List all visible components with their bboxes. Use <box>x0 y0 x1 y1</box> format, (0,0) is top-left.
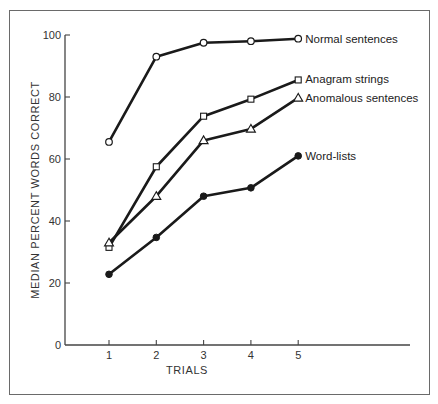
x-tick-label: 2 <box>153 349 159 361</box>
x-tick-label: 3 <box>201 349 207 361</box>
x-tick-label: 1 <box>106 349 112 361</box>
open-circle-marker <box>248 38 255 45</box>
y-tick-label: 60 <box>49 153 61 165</box>
y-axis-title: MEDIAN PERCENT WORDS CORRECT <box>29 81 41 299</box>
series-label: Word-lists <box>305 150 356 162</box>
filled-circle-marker <box>200 193 207 200</box>
filled-circle-marker <box>153 234 160 241</box>
series-label: Normal sentences <box>305 33 398 45</box>
open-square-marker <box>153 164 159 170</box>
y-tick-label: 80 <box>49 91 61 103</box>
filled-circle-marker <box>295 153 302 160</box>
open-square-marker <box>295 77 301 83</box>
x-axis-title: TRIALS <box>166 364 208 376</box>
x-tick-label: 5 <box>295 349 301 361</box>
open-square-marker <box>201 113 207 119</box>
y-tick-label: 40 <box>49 215 61 227</box>
y-tick-label: 20 <box>49 277 61 289</box>
series-line <box>109 80 298 247</box>
open-triangle-marker <box>294 93 303 101</box>
x-tick-label: 4 <box>248 349 254 361</box>
series-label: Anomalous sentences <box>305 92 418 104</box>
open-circle-marker <box>295 35 302 42</box>
line-chart: 02040608010012345 Normal sentencesAnagra… <box>0 0 438 404</box>
open-circle-marker <box>153 53 160 60</box>
filled-circle-marker <box>248 185 255 192</box>
open-square-marker <box>248 96 254 102</box>
y-tick-label: 0 <box>55 339 61 351</box>
y-tick-label: 100 <box>43 29 61 41</box>
open-circle-marker <box>200 39 207 46</box>
open-circle-marker <box>106 139 113 146</box>
series-anomalous-sentences: Anomalous sentences <box>105 92 419 246</box>
series-label: Anagram strings <box>305 73 389 85</box>
series-word-lists: Word-lists <box>106 150 357 278</box>
series-layer: Normal sentencesAnagram stringsAnomalous… <box>105 33 419 278</box>
filled-circle-marker <box>106 271 113 278</box>
